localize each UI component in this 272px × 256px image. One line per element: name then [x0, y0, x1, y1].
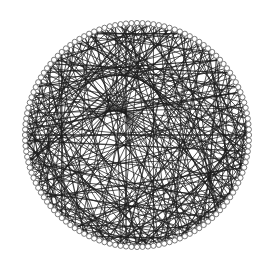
graph-node	[151, 22, 156, 27]
graph-node	[151, 243, 156, 248]
graph-node	[246, 121, 251, 126]
graph-node	[107, 241, 112, 246]
graph-node	[23, 143, 28, 148]
graph-node	[87, 234, 92, 239]
graph-node	[92, 29, 97, 34]
graph-node	[102, 25, 107, 30]
graph-node	[102, 240, 107, 245]
graph-node	[177, 236, 182, 241]
graph-node	[25, 111, 30, 116]
graph-node	[238, 90, 243, 95]
graph-node	[246, 138, 251, 143]
graph-node	[156, 23, 161, 28]
graph-node	[244, 154, 249, 159]
graph-node	[167, 240, 172, 245]
graph-node	[243, 105, 248, 110]
graph-node	[92, 236, 97, 241]
graph-node	[31, 90, 36, 95]
graph-node	[134, 244, 139, 249]
graph-node	[113, 23, 118, 28]
graph-node	[177, 29, 182, 34]
graph-node	[246, 143, 251, 148]
graph-node	[240, 95, 245, 100]
graph-node	[107, 24, 112, 29]
graph-node	[33, 180, 38, 185]
graph-node	[245, 149, 250, 154]
graph-node	[246, 132, 251, 137]
graph-node	[238, 175, 243, 180]
graph-node	[156, 242, 161, 247]
graph-node	[26, 105, 31, 110]
graph-node	[23, 138, 28, 143]
graph-node	[129, 21, 134, 26]
graph-node	[236, 85, 241, 90]
graph-node	[172, 238, 177, 243]
graph-node	[118, 22, 123, 27]
graph-node	[236, 180, 241, 185]
graph-node	[242, 165, 247, 170]
graph-node	[123, 21, 128, 26]
graph-node	[244, 111, 249, 116]
graph-node	[23, 121, 28, 126]
graph-node	[233, 185, 238, 190]
graph-node	[162, 24, 167, 29]
graph-node	[243, 160, 248, 165]
graph-node	[162, 241, 167, 246]
graph-node	[182, 31, 187, 36]
graph-node	[38, 190, 43, 195]
graph-edge	[30, 25, 115, 102]
graph-node	[77, 36, 82, 41]
graph-node	[82, 34, 87, 39]
graph-node	[113, 242, 118, 247]
graph-node	[187, 34, 192, 39]
graph-node	[82, 231, 87, 236]
graph-node	[242, 100, 247, 105]
graph-node	[23, 127, 28, 132]
graph-node	[123, 244, 128, 249]
graph-node	[97, 238, 102, 243]
graph-node	[36, 185, 41, 190]
graph-node	[118, 243, 123, 248]
graph-node	[26, 160, 31, 165]
graph-node	[145, 244, 150, 249]
graph-node	[25, 154, 30, 159]
graph-node	[24, 149, 29, 154]
graph-node	[172, 27, 177, 32]
graph-node	[97, 27, 102, 32]
graph-node	[87, 31, 92, 36]
graph-node	[245, 116, 250, 121]
graph-node	[246, 127, 251, 132]
graph-node	[140, 244, 145, 249]
graph-node	[230, 75, 235, 80]
graph-node	[22, 132, 27, 137]
graph-node	[27, 100, 32, 105]
graph-node	[31, 175, 36, 180]
graph-node	[140, 21, 145, 26]
graph-node	[27, 165, 32, 170]
graph-node	[29, 95, 34, 100]
circular-network-graph	[0, 0, 272, 256]
graph-node	[182, 234, 187, 239]
graph-node	[187, 231, 192, 236]
graph-node	[240, 170, 245, 175]
graph-node	[233, 80, 238, 85]
graph-node	[33, 85, 38, 90]
graph-node	[145, 21, 150, 26]
graph-node	[192, 228, 197, 233]
graph-node	[29, 170, 34, 175]
graph-node	[129, 244, 134, 249]
graph-node	[24, 116, 29, 121]
graph-node	[134, 20, 139, 25]
graph-node	[167, 25, 172, 30]
graph-node	[36, 80, 41, 85]
